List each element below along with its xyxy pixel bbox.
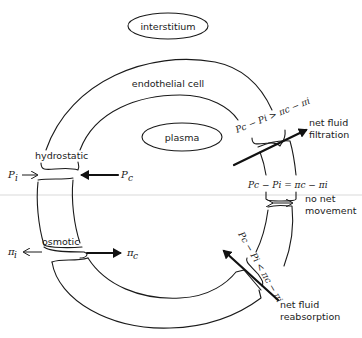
right-lower-inner [256, 210, 268, 252]
right-lower-outer [268, 205, 293, 266]
pi-capillary-force: π c [87, 247, 138, 261]
p-i-symbol: P [7, 169, 15, 180]
hydrostatic-label: hydrostatic [35, 150, 88, 161]
hydrostatic-gap-bottom-edge [38, 178, 73, 180]
endothelial-segment-right-upper [258, 141, 296, 175]
filtration-arrow [234, 130, 306, 165]
outer-wall-top [46, 59, 272, 150]
equilibrium-brace [266, 192, 296, 201]
p-c-subscript: c [128, 173, 133, 183]
equilibrium-equation: Pc − Pi = πc − πi [247, 180, 328, 190]
p-i-subscript: i [15, 173, 18, 183]
osmotic-label: osmotic [42, 236, 79, 247]
equilibrium-label-line1: no net [305, 193, 336, 204]
interstitium-region: interstitium [128, 13, 208, 39]
osmotic-gap-bottom-edge [52, 258, 88, 262]
p-c-symbol: P [120, 169, 128, 180]
inner-wall-top [80, 95, 238, 150]
bottom-segment-inner [88, 258, 261, 298]
endothelial-segment-bottom [52, 258, 261, 328]
filtration-label-line1: net fluid [309, 117, 348, 128]
reabsorption-label-line2: reabsorption [280, 311, 340, 322]
equilibrium-label-line2: movement [305, 205, 357, 216]
p-interstitial-force: P i [7, 169, 37, 183]
hydrostatic-gap-top-edge [41, 162, 79, 170]
plasma-label: plasma [165, 132, 200, 143]
right-upper-outer [258, 141, 296, 175]
reabsorption-equation: Pc − Pi < πc − πi [236, 229, 285, 304]
pi-c-subscript: c [133, 251, 138, 261]
endothelial-segment-top [46, 59, 272, 150]
plasma-region: plasma [142, 123, 222, 151]
osmotic-gap-top-edge [44, 247, 87, 258]
interstitium-label: interstitium [140, 21, 195, 32]
pi-i-subscript: i [14, 250, 17, 260]
reabsorption-label-line1: net fluid [280, 299, 319, 310]
bottom-segment-outer [52, 262, 261, 328]
endothelial-cell-label: endothelial cell [132, 78, 204, 89]
p-capillary-force: P c [82, 169, 133, 183]
right-upper-inner [260, 152, 266, 175]
reabsorption-condition: Pc − Pi < πc − πi net fluid reabsorption [224, 229, 340, 322]
left-segment-inner [72, 180, 80, 243]
pi-interstitial-force: π i [7, 246, 42, 260]
filtration-label-line2: filtration [309, 129, 349, 140]
filtration-equation: Pc − Pi > πc − πi [233, 96, 312, 135]
filtration-condition: Pc − Pi > πc − πi net fluid filtration [233, 96, 349, 165]
capillary-fluid-exchange-diagram: interstitium endothelial cell plasma hyd… [0, 0, 362, 338]
equilibrium-condition: Pc − Pi = πc − πi no net movement [247, 180, 357, 216]
